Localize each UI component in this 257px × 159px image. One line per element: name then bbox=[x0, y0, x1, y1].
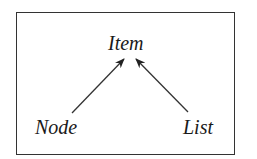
node-item: Item bbox=[108, 33, 144, 53]
arrow-node-to-item bbox=[72, 59, 124, 113]
node-node: Node bbox=[35, 117, 77, 137]
node-list: List bbox=[183, 117, 213, 137]
arrow-list-to-item bbox=[136, 59, 188, 112]
